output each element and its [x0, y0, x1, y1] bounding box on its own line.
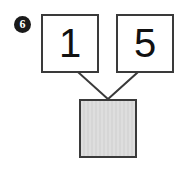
- part-box-right-value: 5: [134, 23, 156, 63]
- connector-line-right: [108, 73, 137, 99]
- whole-answer-box[interactable]: [79, 99, 137, 158]
- part-box-left-value: 1: [59, 23, 81, 63]
- part-box-right[interactable]: 5: [116, 14, 174, 73]
- connector-line-left: [79, 73, 108, 99]
- number-bond-problem: 6 1 5: [0, 0, 186, 170]
- part-box-left[interactable]: 1: [41, 14, 99, 73]
- item-number-marker-icon: 6: [14, 16, 31, 33]
